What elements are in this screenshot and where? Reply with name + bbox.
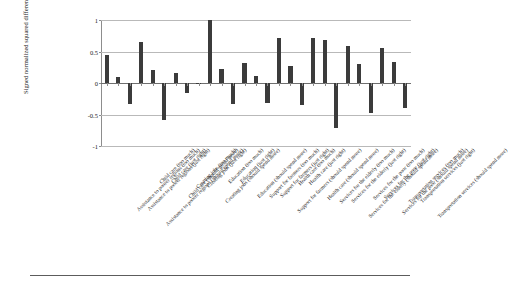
plot-area: 10.50-0.5-1 — [101, 20, 411, 146]
x-tick-mark — [141, 83, 142, 86]
x-tick-mark — [313, 83, 314, 86]
y-axis-label: Signed normalized squared difference — [22, 0, 30, 114]
bar — [174, 73, 178, 83]
x-tick-mark — [382, 83, 383, 86]
bar — [162, 83, 166, 120]
bar — [311, 38, 315, 83]
bar — [128, 83, 132, 104]
bar — [139, 42, 143, 83]
y-tick-label: 0.5 — [90, 48, 98, 55]
x-tick-mark — [348, 83, 349, 86]
x-tick-mark — [210, 83, 211, 86]
bar — [219, 69, 223, 83]
bar — [265, 83, 269, 103]
x-axis-label-group: Assistance to poorer regions (too much)A… — [101, 147, 441, 267]
bar — [242, 63, 246, 83]
y-tick-label: 1 — [95, 17, 98, 24]
bar — [369, 83, 373, 113]
bar — [105, 55, 109, 83]
x-tick-mark — [107, 83, 108, 86]
x-tick-mark — [394, 83, 395, 86]
bar — [392, 62, 396, 83]
x-tick-mark — [256, 83, 257, 86]
bar — [208, 20, 212, 83]
x-tick-mark — [187, 83, 188, 86]
x-tick-mark — [302, 83, 303, 86]
x-tick-mark — [359, 83, 360, 86]
bar — [254, 76, 258, 83]
x-tick-mark — [164, 83, 165, 86]
bar — [277, 38, 281, 83]
x-tick-mark — [290, 83, 291, 86]
y-tick-label: -0.5 — [88, 111, 98, 118]
x-tick-mark — [245, 83, 246, 86]
x-tick-mark — [130, 83, 131, 86]
y-tick-label: -1 — [93, 143, 98, 150]
x-tick-mark — [199, 83, 200, 86]
bar — [151, 70, 155, 83]
x-tick-mark — [279, 83, 280, 86]
x-tick-label: Transportation services (should spend mo… — [436, 147, 508, 219]
x-tick-mark — [153, 83, 154, 86]
x-tick-mark — [405, 83, 406, 86]
x-tick-mark — [325, 83, 326, 86]
bar — [323, 40, 327, 83]
x-tick-mark — [371, 83, 372, 86]
bar — [357, 64, 361, 83]
bar — [231, 83, 235, 104]
x-tick-mark — [267, 83, 268, 86]
x-tick-mark — [336, 83, 337, 86]
bar — [334, 83, 338, 128]
y-tick-label: 0 — [95, 80, 98, 87]
x-tick-mark — [176, 83, 177, 86]
bar — [346, 46, 350, 83]
bar — [288, 66, 292, 83]
bar — [300, 83, 304, 105]
bar — [380, 48, 384, 83]
x-tick-mark — [222, 83, 223, 86]
bar — [403, 83, 407, 108]
x-tick-mark — [118, 83, 119, 86]
x-tick-mark — [233, 83, 234, 86]
bar-group — [101, 20, 411, 146]
footer-divider — [30, 275, 410, 276]
